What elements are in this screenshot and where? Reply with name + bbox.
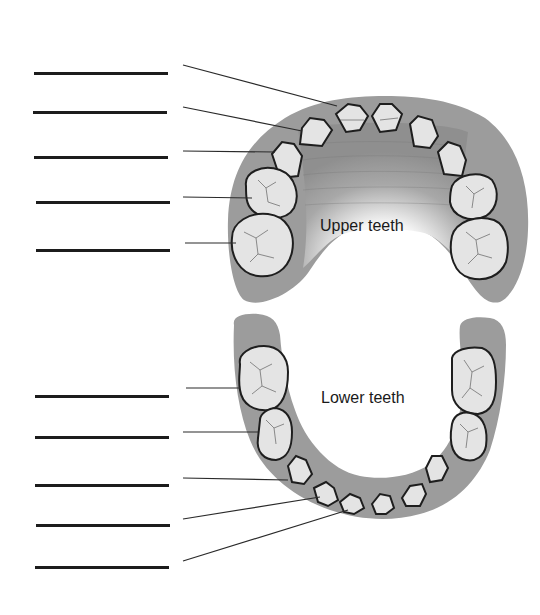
answer-blank-7[interactable] [35, 436, 169, 439]
teeth-diagram: Upper teeth Lower teeth [0, 0, 540, 615]
upper-first-molar-left [246, 168, 297, 218]
lower-second-molar-right [451, 412, 487, 460]
answer-blank-5[interactable] [36, 249, 170, 252]
upper-second-molar-right [451, 218, 508, 279]
upper-second-molar-left [232, 214, 293, 277]
lower-teeth-label: Lower teeth [321, 389, 405, 407]
answer-blank-10[interactable] [35, 566, 169, 569]
answer-blank-8[interactable] [35, 484, 169, 487]
lower-first-molar-right [452, 347, 496, 414]
answer-blank-3[interactable] [34, 156, 168, 159]
answer-blank-2[interactable] [33, 111, 167, 114]
answer-blank-4[interactable] [36, 201, 170, 204]
answer-blank-6[interactable] [35, 395, 169, 398]
answer-blank-1[interactable] [34, 72, 168, 75]
lower-first-molar-left [239, 346, 288, 410]
upper-teeth-label: Upper teeth [320, 217, 404, 235]
dental-arches-illustration [0, 0, 540, 615]
answer-blank-9[interactable] [36, 524, 170, 527]
